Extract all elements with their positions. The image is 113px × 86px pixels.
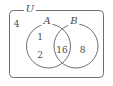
region-count-a-only-lower: 2 xyxy=(37,51,43,60)
set-b-label: B xyxy=(68,16,79,26)
region-count-a-only-upper: 1 xyxy=(37,33,43,42)
region-count-outside-both: 4 xyxy=(14,20,20,29)
set-a-label: A xyxy=(41,16,52,26)
venn-diagram-figure: U A B 4 1 2 16 8 xyxy=(0,0,113,86)
region-count-b-only: 8 xyxy=(80,46,86,55)
region-count-intersection: 16 xyxy=(56,46,67,55)
venn-diagram-canvas xyxy=(0,0,113,86)
universal-set-label: U xyxy=(24,4,36,14)
